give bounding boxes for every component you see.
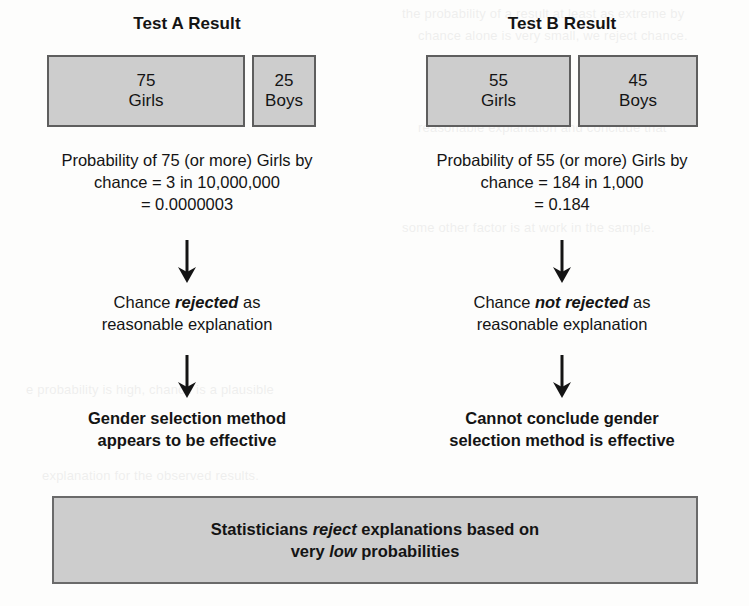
test-b-chance-line-2: reasonable explanation xyxy=(375,314,749,336)
test-a-conclusion-line-1: Gender selection method xyxy=(0,407,374,429)
summary-line-2-emphasis: low xyxy=(329,542,357,560)
test-a-boys-box: 25 Boys xyxy=(252,55,316,127)
summary-text: Statisticians reject explanations based … xyxy=(211,518,539,563)
test-b-chance-prefix: Chance xyxy=(473,293,534,311)
test-a-girls-label: Girls xyxy=(129,91,164,111)
test-b-conclusion-text: Cannot conclude gender selection method … xyxy=(375,407,749,452)
test-b-girls-count: 55 xyxy=(489,71,508,91)
test-a-title: Test A Result xyxy=(0,14,374,34)
test-a-probability-line-3: = 0.0000003 xyxy=(0,194,374,216)
test-b-probability-line-2: chance = 184 in 1,000 xyxy=(375,172,749,194)
test-b-boys-label: Boys xyxy=(619,91,657,111)
test-b-girls-label: Girls xyxy=(481,91,516,111)
test-b-box-row: 55 Girls 45 Boys xyxy=(426,55,698,127)
test-a-down-arrow-1 xyxy=(172,240,202,284)
test-a-girls-count: 75 xyxy=(137,71,156,91)
test-b-probability-line-1: Probability of 55 (or more) Girls by xyxy=(375,150,749,172)
test-a-chance-emphasis: rejected xyxy=(175,293,238,311)
test-b-down-arrow-1 xyxy=(547,240,577,284)
summary-line-2-prefix: very xyxy=(291,542,330,560)
test-a-box-row: 75 Girls 25 Boys xyxy=(47,55,316,127)
test-a-chance-suffix: as xyxy=(238,293,260,311)
test-b-title: Test B Result xyxy=(375,14,749,34)
test-b-probability-line-3: = 0.184 xyxy=(375,194,749,216)
test-b-conclusion-line-2: selection method is effective xyxy=(375,429,749,451)
test-b-boys-count: 45 xyxy=(629,71,648,91)
summary-line-2-suffix: probabilities xyxy=(357,542,460,560)
test-a-girls-box: 75 Girls xyxy=(47,55,245,127)
test-b-chance-text: Chance not rejected as reasonable explan… xyxy=(375,292,749,336)
diagram-canvas: the probability of a result at least as … xyxy=(0,0,749,606)
test-a-chance-line-2: reasonable explanation xyxy=(0,314,374,336)
summary-line-1-emphasis: reject xyxy=(313,520,357,538)
summary-line-1: Statisticians reject explanations based … xyxy=(211,518,539,540)
test-b-probability-text: Probability of 55 (or more) Girls by cha… xyxy=(375,150,749,216)
test-a-boys-label: Boys xyxy=(265,91,303,111)
test-a-down-arrow-2 xyxy=(172,355,202,399)
test-a-probability-text: Probability of 75 (or more) Girls by cha… xyxy=(0,150,374,216)
summary-line-1-suffix: explanations based on xyxy=(357,520,539,538)
test-b-chance-emphasis: not rejected xyxy=(535,293,629,311)
test-b-conclusion-line-1: Cannot conclude gender xyxy=(375,407,749,429)
test-b-chance-suffix: as xyxy=(628,293,650,311)
summary-box: Statisticians reject explanations based … xyxy=(52,496,698,584)
test-b-girls-box: 55 Girls xyxy=(426,55,571,127)
test-b-chance-line-1: Chance not rejected as xyxy=(375,292,749,314)
test-a-conclusion-line-2: appears to be effective xyxy=(0,429,374,451)
test-a-boys-count: 25 xyxy=(275,71,294,91)
test-b-down-arrow-2 xyxy=(547,355,577,399)
test-a-conclusion-text: Gender selection method appears to be ef… xyxy=(0,407,374,452)
test-a-chance-text: Chance rejected as reasonable explanatio… xyxy=(0,292,374,336)
summary-line-2: very low probabilities xyxy=(211,540,539,562)
test-a-probability-line-2: chance = 3 in 10,000,000 xyxy=(0,172,374,194)
test-a-chance-line-1: Chance rejected as xyxy=(0,292,374,314)
test-b-boys-box: 45 Boys xyxy=(578,55,698,127)
summary-line-1-prefix: Statisticians xyxy=(211,520,313,538)
test-a-probability-line-1: Probability of 75 (or more) Girls by xyxy=(0,150,374,172)
test-a-chance-prefix: Chance xyxy=(114,293,175,311)
